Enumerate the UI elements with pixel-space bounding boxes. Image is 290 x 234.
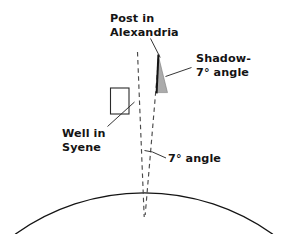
- well-label-line1: Well in: [62, 127, 106, 140]
- shadow-label-line2: 7° angle: [196, 66, 249, 79]
- well-label-line2: Syene: [62, 141, 101, 154]
- earth-circumference-figure: Post in Alexandria Shadow- 7° angle Well…: [0, 0, 290, 234]
- eratosthenes-diagram: Post in Alexandria Shadow- 7° angle Well…: [0, 0, 290, 234]
- shadow-label-line1: Shadow-: [196, 52, 251, 65]
- angle-label: 7° angle: [168, 152, 221, 165]
- post-label-line1: Post in: [110, 12, 154, 25]
- post-label-line2: Alexandria: [110, 26, 179, 39]
